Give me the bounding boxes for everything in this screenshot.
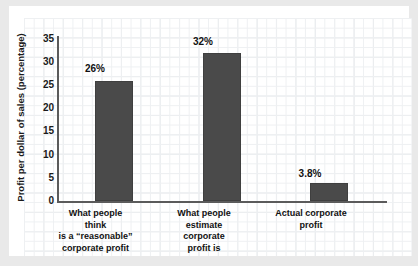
y-tick-30: 30: [32, 57, 54, 67]
x-category-label-0-line-1: is a “reasonable”: [58, 231, 133, 243]
x-category-label-0-line-0: What people think: [58, 208, 133, 231]
bar-what-people-estimate[interactable]: [203, 53, 241, 201]
x-category-label-1-line-2: profit is: [165, 243, 243, 255]
x-category-label-2: Actual corporate profit: [272, 208, 350, 231]
x-category-label-0-line-2: corporate profit: [58, 243, 133, 255]
x-category-label-2-line-0: Actual corporate: [272, 208, 350, 220]
x-category-label-2-line-1: profit: [272, 220, 350, 232]
y-tick-0: 0: [32, 196, 54, 206]
bar-value-label-2: 3.8%: [291, 168, 329, 179]
y-tick-10: 10: [32, 150, 54, 160]
y-tick-25: 25: [32, 80, 54, 90]
x-category-label-1-line-1: estimate corporate: [165, 220, 243, 243]
y-tick-20: 20: [32, 103, 54, 113]
y-axis-title: Profit per dollar of sales (percentage): [15, 33, 26, 203]
x-category-label-1-line-0: What people: [165, 208, 243, 220]
y-axis-tick-labels: 35 30 25 20 15 10 5 0: [28, 0, 54, 266]
x-category-label-0: What people think is a “reasonable” corp…: [58, 208, 133, 254]
y-tick-15: 15: [32, 126, 54, 136]
x-category-label-1: What people estimate corporate profit is: [165, 208, 243, 254]
y-tick-35: 35: [32, 34, 54, 44]
figure-container: Profit per dollar of sales (percentage) …: [0, 0, 418, 266]
bar-actual-corporate-profit[interactable]: [310, 183, 348, 201]
bar-value-label-1: 32%: [184, 36, 222, 47]
bar-value-label-0: 26%: [76, 63, 114, 74]
x-axis-line: [57, 201, 387, 203]
bar-what-people-think-reasonable[interactable]: [95, 81, 133, 201]
y-tick-5: 5: [32, 173, 54, 183]
